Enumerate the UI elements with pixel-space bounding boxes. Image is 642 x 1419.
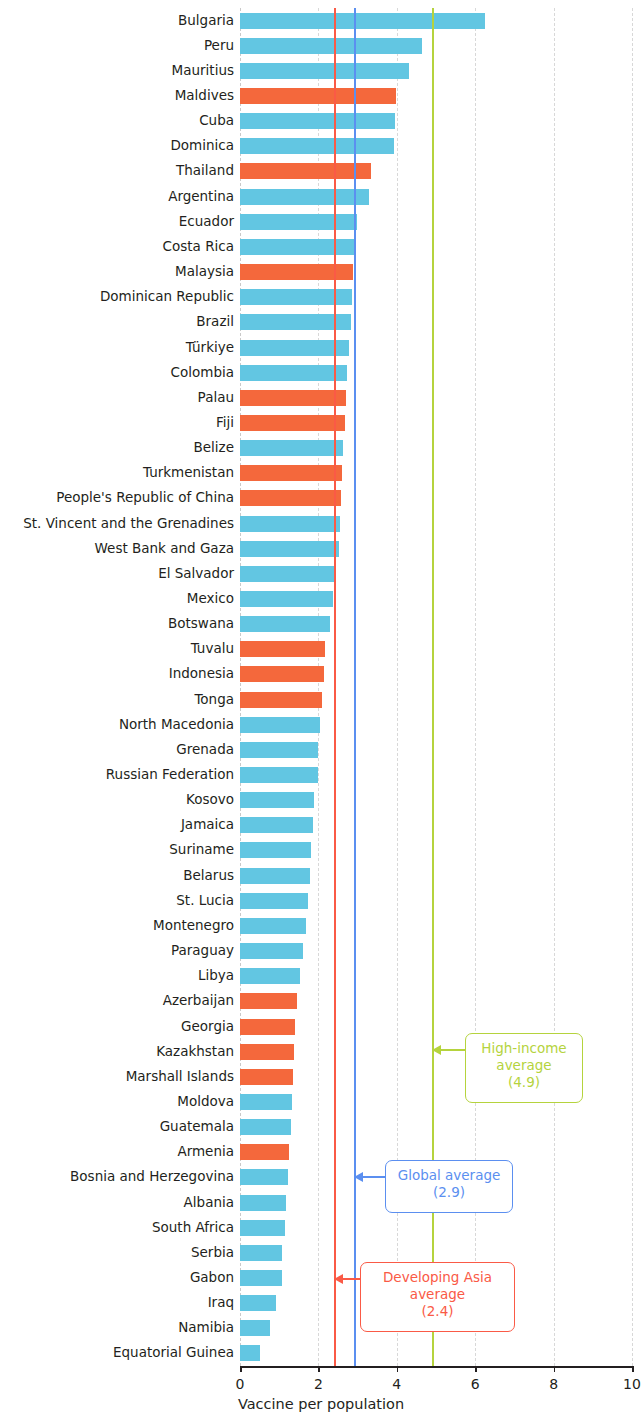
bar <box>240 1169 288 1185</box>
bar <box>240 968 300 984</box>
bar <box>240 943 303 959</box>
category-label: Thailand <box>176 164 234 178</box>
bar-fill <box>240 1195 286 1211</box>
bar <box>240 1345 260 1361</box>
x-axis-line <box>240 1366 632 1368</box>
bar-fill <box>240 13 485 29</box>
bar-fill <box>240 38 422 54</box>
bar <box>240 1270 282 1286</box>
bar <box>240 516 340 532</box>
category-label: Türkiye <box>186 341 234 355</box>
bar-fill <box>240 1019 295 1035</box>
x-axis-tick-label: 10 <box>623 1376 641 1392</box>
category-label: Armenia <box>177 1145 234 1159</box>
category-label: Grenada <box>176 743 234 757</box>
category-label: Namibia <box>178 1321 234 1335</box>
category-label: Iraq <box>208 1296 234 1310</box>
category-label: South Africa <box>152 1221 234 1235</box>
bar-fill <box>240 918 306 934</box>
category-label: Marshall Islands <box>126 1070 234 1084</box>
bar-fill <box>240 817 313 833</box>
bar <box>240 1195 286 1211</box>
bar <box>240 1245 282 1261</box>
bar <box>240 591 333 607</box>
bar-fill <box>240 214 357 230</box>
category-label: Dominica <box>170 139 234 153</box>
bar-fill <box>240 239 356 255</box>
bar-fill <box>240 440 343 456</box>
bar-fill <box>240 189 369 205</box>
category-label: Guatemala <box>160 1120 234 1134</box>
category-label: Paraguay <box>171 944 234 958</box>
bar-fill <box>240 490 341 506</box>
category-label: Costa Rica <box>163 240 234 254</box>
reference-line-developing-asia-average <box>334 8 336 1366</box>
category-label: Argentina <box>168 190 234 204</box>
reference-line-global-average <box>354 8 356 1366</box>
callout-value: (2.4) <box>369 1303 506 1320</box>
bar-fill <box>240 1270 282 1286</box>
bar <box>240 340 349 356</box>
gridline <box>318 8 320 1366</box>
category-label: Indonesia <box>169 667 234 681</box>
category-label: Dominican Republic <box>100 290 234 304</box>
category-label: Tuvalu <box>191 642 234 656</box>
bar-fill <box>240 415 345 431</box>
category-label: Mexico <box>187 592 234 606</box>
bar <box>240 88 396 104</box>
gridline <box>554 8 556 1366</box>
x-axis-tick-label: 8 <box>549 1376 558 1392</box>
x-axis-tick <box>554 1366 556 1372</box>
bar-fill <box>240 1044 294 1060</box>
bar-fill <box>240 1119 291 1135</box>
bar-fill <box>240 742 318 758</box>
bar <box>240 189 369 205</box>
bar-fill <box>240 868 310 884</box>
category-label: St. Vincent and the Grenadines <box>23 517 234 531</box>
bar <box>240 742 318 758</box>
category-label: Serbia <box>191 1246 234 1260</box>
category-label: Libya <box>198 969 234 983</box>
bar-fill <box>240 943 303 959</box>
x-axis-title: Vaccine per population <box>0 1396 642 1412</box>
bar-fill <box>240 993 297 1009</box>
bar <box>240 717 320 733</box>
category-label: Russian Federation <box>106 768 234 782</box>
category-label: West Bank and Gaza <box>95 542 234 556</box>
bar <box>240 13 485 29</box>
category-label: Peru <box>204 39 234 53</box>
category-label: St. Lucia <box>176 894 234 908</box>
bar <box>240 390 346 406</box>
bar-fill <box>240 666 324 682</box>
bar <box>240 641 325 657</box>
bar-fill <box>240 792 314 808</box>
category-label: Bulgaria <box>178 14 234 28</box>
category-label: Maldives <box>175 89 234 103</box>
callout-label: High-income average <box>481 1040 566 1073</box>
bar-fill <box>240 1094 292 1110</box>
bar-fill <box>240 88 396 104</box>
bar <box>240 918 306 934</box>
bar-fill <box>240 1144 289 1160</box>
callout-global-average: Global average(2.9) <box>385 1160 513 1213</box>
bar <box>240 1295 276 1311</box>
bar-fill <box>240 566 336 582</box>
bar <box>240 415 345 431</box>
callout-value: (4.9) <box>474 1074 574 1091</box>
category-label: Mauritius <box>172 64 234 78</box>
bar <box>240 792 314 808</box>
category-label: El Salvador <box>158 567 234 581</box>
bar <box>240 365 347 381</box>
bar-fill <box>240 1220 285 1236</box>
x-axis-tick <box>318 1366 320 1372</box>
bar-fill <box>240 692 322 708</box>
bar-fill <box>240 717 320 733</box>
bar-fill <box>240 390 346 406</box>
category-label: Azerbaijan <box>163 994 234 1008</box>
category-label: Cuba <box>199 114 234 128</box>
bar-fill <box>240 163 371 179</box>
bar <box>240 1019 295 1035</box>
bar <box>240 1220 285 1236</box>
x-axis-tick-label: 6 <box>471 1376 480 1392</box>
bar <box>240 465 342 481</box>
